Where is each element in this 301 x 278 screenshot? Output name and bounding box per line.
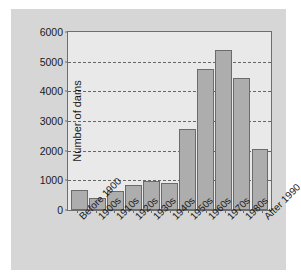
y-tick-mark bbox=[65, 180, 68, 181]
y-tick-label: 1000 bbox=[40, 174, 68, 186]
y-tick-label: 2000 bbox=[40, 145, 68, 157]
y-tick-mark bbox=[65, 61, 68, 62]
y-tick-mark bbox=[65, 210, 68, 211]
y-tick-mark bbox=[65, 32, 68, 33]
y-tick-mark bbox=[65, 150, 68, 151]
y-tick-label: 3000 bbox=[40, 115, 68, 127]
bar bbox=[233, 78, 250, 210]
y-tick-label: 6000 bbox=[40, 26, 68, 38]
bar bbox=[215, 50, 232, 210]
y-axis-title: Number of dams bbox=[71, 80, 83, 161]
bar bbox=[197, 69, 214, 210]
y-tick-label: 4000 bbox=[40, 85, 68, 97]
y-tick-mark bbox=[65, 91, 68, 92]
figure-panel: 0100020003000400050006000 Before 1900190… bbox=[11, 9, 286, 270]
bar-series bbox=[68, 32, 271, 210]
plot-area: 0100020003000400050006000 Before 1900190… bbox=[67, 31, 272, 211]
y-tick-label: 5000 bbox=[40, 56, 68, 68]
y-tick-mark bbox=[65, 121, 68, 122]
